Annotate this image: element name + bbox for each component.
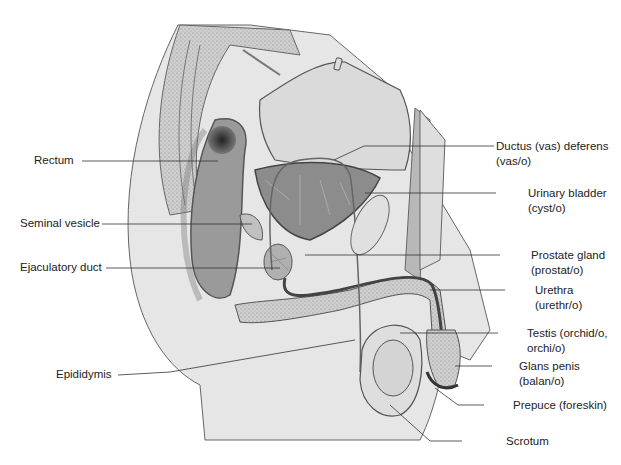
label-testis: Testis (orchid/o, orchi/o) [527, 326, 608, 356]
label-ductus-deferens: Ductus (vas) deferens (vas/o) [496, 139, 609, 169]
label-epididymis: Epididymis [56, 367, 112, 382]
label-urethra: Urethra (urethr/o) [535, 283, 582, 313]
label-scrotum: Scrotum [506, 434, 549, 449]
label-ejaculatory-duct: Ejaculatory duct [20, 260, 102, 275]
label-urinary-bladder: Urinary bladder (cyst/o) [528, 186, 607, 216]
anatomy-illustration [0, 0, 621, 465]
testis [373, 340, 413, 396]
label-prepuce: Prepuce (foreskin) [513, 398, 607, 413]
prostate-gland [264, 244, 292, 280]
label-seminal-vesicle: Seminal vesicle [20, 216, 100, 231]
label-glans-penis: Glans penis (balan/o) [519, 359, 580, 389]
label-prostate-gland: Prostate gland (prostat/o) [531, 248, 605, 278]
label-rectum: Rectum [34, 153, 74, 168]
